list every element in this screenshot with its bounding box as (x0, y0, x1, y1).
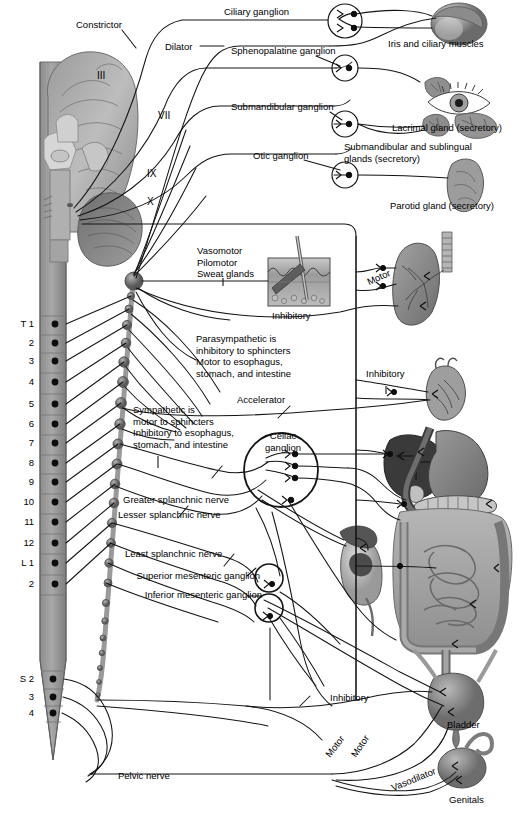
pelvic-nerve-label: Pelvic nerve (118, 770, 170, 782)
spinal-segment-label-L2: 2 (4, 578, 34, 590)
spinal-segment-label-S2: S 2 (4, 673, 34, 685)
spinal-segment-label-T2: 2 (4, 337, 34, 349)
least-splanchnic-nerve-label: Least splanchnic nerve (125, 548, 222, 560)
sympathetic-note-block: Sympathetic is motor to sphincters Inhib… (133, 404, 234, 450)
autonomic-nervous-system-diagram: III VII IX X Constrictor Dilator Ciliary… (0, 0, 522, 813)
cranial-nerve-X-label: X (147, 196, 154, 208)
heart-inhibitory-label: Inhibitory (366, 368, 405, 380)
spinal-segment-label-T11: 11 (4, 516, 34, 528)
spinal-segment-label-S3: 3 (4, 691, 34, 703)
cranial-nerve-VII-label: VII (158, 110, 170, 122)
cranial-nerve-IX-label: IX (147, 168, 156, 180)
ciliary-ganglion-label: Ciliary ganglion (224, 6, 289, 18)
cranial-nerve-III-label: III (97, 70, 105, 82)
greater-splanchnic-nerve-label: Greater splanchnic nerve (123, 494, 229, 506)
iris-ciliary-muscles-label: Iris and ciliary muscles (388, 38, 484, 50)
spinal-segment-label-T7: 7 (4, 437, 34, 449)
spinal-segment-label-T6: 6 (4, 418, 34, 430)
parasympathetic-note-block: Parasympathetic is inhibitory to sphinct… (196, 333, 291, 379)
lacrimal-gland-label: Lacrimal gland (secretory) (392, 122, 502, 134)
lesser-splanchnic-nerve-label: Lesser splanchnic nerve (118, 509, 220, 521)
spinal-segment-label-T3: 3 (4, 355, 34, 367)
spinal-segment-label-T1: T 1 (4, 318, 34, 330)
spinal-segment-label-T8: 8 (4, 457, 34, 469)
spinal-segment-label-T5: 5 (4, 398, 34, 410)
celiac-ganglion-label: Celiac ganglion (253, 430, 313, 453)
spinal-segment-label-T10: 10 (4, 496, 34, 508)
dilator-label: Dilator (165, 41, 192, 53)
inferior-mesenteric-ganglion-label: Inferior mesenteric ganglion (110, 589, 262, 601)
vasomotor-note-block: Vasomotor Pilomotor Sweat glands (197, 245, 254, 280)
submandibular-sublingual-glands-label: Submandibular and sublingual glands (sec… (344, 141, 472, 164)
bladder-label: Bladder (447, 719, 480, 731)
spinal-segment-label-L1: L 1 (4, 557, 34, 569)
otic-ganglion-label: Otic ganglion (253, 150, 308, 162)
superior-mesenteric-ganglion-label: Superior mesenteric ganglion (110, 570, 260, 582)
spinal-segment-label-T4: 4 (4, 376, 34, 388)
spinal-root-dots (50, 321, 59, 717)
spinal-segment-label-T9: 9 (4, 476, 34, 488)
lung-inhibitory-label: Inhibitory (272, 310, 311, 322)
spinal-segment-label-S4: 4 (4, 707, 34, 719)
submandibular-ganglion-label: Submandibular ganglion (231, 101, 333, 113)
parotid-gland-label: Parotid gland (secretory) (390, 200, 494, 212)
constrictor-label: Constrictor (76, 19, 122, 31)
genitals-label: Genitals (449, 794, 484, 806)
heart-accelerator-label: Accelerator (237, 394, 285, 406)
bladder-inhibitory-label: Inhibitory (330, 692, 369, 704)
sphenopalatine-ganglion-label: Sphenopalatine ganglion (231, 45, 336, 57)
ciliary-ganglion-circle (328, 4, 362, 38)
spinal-segment-label-T12: 12 (4, 537, 34, 549)
